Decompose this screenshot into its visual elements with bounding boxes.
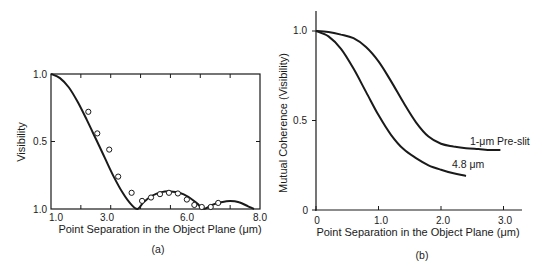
- chart-b-ytick-0: 0: [302, 205, 308, 216]
- chart-a-ytick-mid: 0.5: [33, 136, 47, 147]
- data-point: [208, 204, 213, 209]
- chart-a-frame: [51, 74, 260, 209]
- chart-a-xlabel: Point Separation in the Object Plane (μm…: [58, 223, 261, 235]
- chart-a-ytick-top: 1.0: [33, 69, 47, 80]
- chart-b-xtick-1: 1.0: [374, 215, 388, 226]
- chart-b-panel-label: (b): [416, 249, 429, 261]
- chart-b-xtick-0: 0: [314, 215, 320, 226]
- data-point: [95, 131, 100, 136]
- chart-b-ytick-1: 1.0: [293, 25, 307, 36]
- chart-a-theory-curve: [51, 74, 254, 209]
- chart-b-4-8um-curve: [316, 31, 466, 176]
- chart-a: 1.0 0.5 1.0 1.0 3.0 6.0 8.0 Point Separa…: [15, 69, 267, 255]
- data-point: [166, 190, 171, 195]
- chart-b-xtick-2: 2.0: [436, 215, 450, 226]
- chart-a-ytick-bottom: 1.0: [33, 204, 47, 215]
- chart-a-xtick-8: 8.0: [253, 212, 267, 223]
- chart-b-xtick-3: 3.0: [498, 215, 512, 226]
- data-point: [184, 197, 189, 202]
- chart-b-label-preslit: 1-μm Pre-slit: [470, 135, 530, 147]
- chart-b-label-4-8um: 4.8 μm: [452, 158, 485, 170]
- chart-b-xlabel: Point Separation in the Object Plane (μm…: [316, 226, 519, 238]
- chart-a-panel-label: (a): [152, 243, 165, 255]
- data-point: [148, 195, 153, 200]
- data-point: [216, 200, 221, 205]
- data-point: [107, 147, 112, 152]
- chart-b-ylabel: Mutual Coherence (Visibility): [277, 53, 289, 193]
- chart-b-preslit-curve: [316, 31, 500, 150]
- data-point: [199, 204, 204, 209]
- data-point: [86, 109, 91, 114]
- figure: 1.0 0.5 1.0 1.0 3.0 6.0 8.0 Point Separa…: [0, 0, 548, 266]
- data-point: [129, 190, 134, 195]
- data-point: [116, 174, 121, 179]
- data-point: [192, 202, 197, 207]
- chart-a-ylabel: Visibility: [15, 122, 27, 162]
- data-point: [139, 198, 144, 203]
- chart-a-xtick-3: 3.0: [100, 212, 114, 223]
- data-point: [157, 192, 162, 197]
- chart-b: 1.0 0.5 0 0 1.0 2.0 3.0 Point Separation…: [277, 11, 530, 261]
- chart-b-ticks: [312, 31, 504, 210]
- chart-a-xtick-1: 1.0: [49, 212, 63, 223]
- data-point: [175, 191, 180, 196]
- chart-b-ytick-05: 0.5: [293, 115, 307, 126]
- chart-a-ticks: [51, 74, 260, 209]
- chart-a-xtick-6: 6.0: [180, 212, 194, 223]
